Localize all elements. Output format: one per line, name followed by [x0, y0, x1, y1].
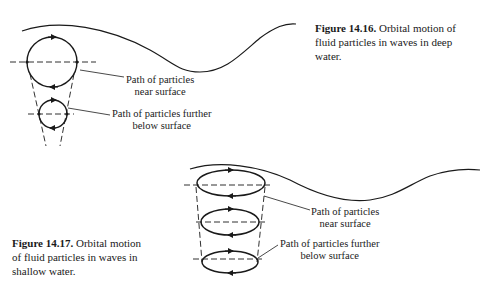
label-near-surface-shallow: Path of particles near surface	[311, 206, 379, 230]
caption-line: water.	[315, 50, 342, 62]
caption-line: Orbital motion of	[379, 22, 456, 34]
figure-number: Figure 14.16.	[315, 22, 376, 34]
caption-figure-14-16: Figure 14.16. Orbital motion of fluid pa…	[315, 21, 487, 63]
label-line: Path of particles	[126, 74, 194, 86]
label-line: below surface	[112, 120, 211, 132]
caption-line: Orbital motion	[76, 237, 141, 249]
label-below-surface-shallow: Path of particles further below surface	[280, 238, 379, 262]
orbit-below-surface	[39, 100, 67, 128]
wave-surface	[22, 24, 296, 72]
label-line: Path of particles	[311, 206, 379, 218]
caption-line: shallow water.	[12, 265, 76, 277]
figure-number: Figure 14.17.	[12, 237, 73, 249]
label-line: near surface	[311, 218, 379, 230]
label-line: Path of particles further	[112, 108, 211, 120]
caption-line: of fluid particles in waves in	[12, 251, 138, 263]
orbit-near-surface	[197, 170, 265, 196]
label-line: Path of particles further	[280, 238, 379, 250]
caption-line: fluid particles in waves in deep	[315, 36, 452, 48]
label-below-surface-deep: Path of particles further below surface	[112, 108, 211, 132]
label-line: near surface	[126, 86, 194, 98]
label-line: below surface	[280, 250, 379, 262]
caption-figure-14-17: Figure 14.17. Orbital motion of fluid pa…	[12, 236, 172, 278]
orbit-below-surface	[202, 251, 258, 273]
label-near-surface-deep: Path of particles near surface	[126, 74, 194, 98]
